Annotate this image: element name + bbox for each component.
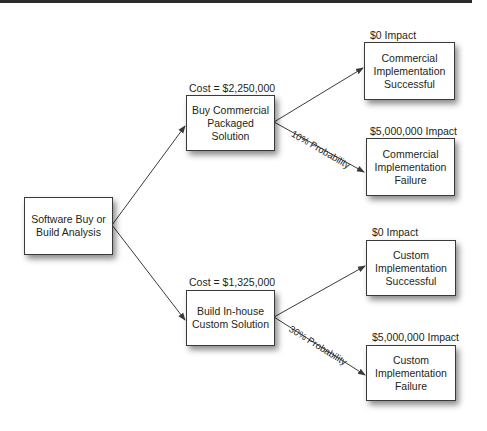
arrow-build-to-success [274,266,365,317]
commercial-success-impact: $0 Impact [370,29,416,41]
outcome-line1: Custom [375,249,447,262]
buy-label-line2: Packaged Solution [187,117,274,143]
build-label-line1: Build In-house [192,305,269,318]
buy-cost-label: Cost = $2,250,000 [189,82,275,94]
buy-commercial-node: Buy Commercial Packaged Solution [186,95,275,151]
build-cost-label: Cost = $1,325,000 [189,276,275,288]
build-label-line2: Custom Solution [192,318,269,331]
custom-success-impact: $0 Impact [372,226,418,238]
outcome-line2: Implementation [375,262,447,275]
outcome-line2: Implementation [375,367,447,380]
outcome-line1: Custom [375,354,447,367]
arrow-buy-to-success [274,68,363,122]
commercial-failure-node: Commercial Implementation Failure [366,138,455,196]
custom-failure-node: Custom Implementation Failure [366,345,456,401]
outcome-line3: Failure [375,380,447,393]
outcome-line3: Successful [374,78,446,91]
outcome-line3: Failure [375,174,447,187]
root-decision-node: Software Buy or Build Analysis [24,197,113,255]
custom-failure-impact: $5,000,000 Impact [372,331,459,343]
root-label-line1: Software Buy or [31,213,106,226]
arrow-root-to-build [112,225,185,320]
outcome-line2: Implementation [374,65,446,78]
root-label-line2: Build Analysis [31,226,106,239]
outcome-line2: Implementation [375,161,447,174]
buy-label-line1: Buy Commercial [187,104,274,117]
build-custom-node: Build In-house Custom Solution [186,290,275,346]
commercial-success-node: Commercial Implementation Successful [364,42,455,100]
custom-success-node: Custom Implementation Successful [366,240,456,296]
outcome-line1: Commercial [374,52,446,65]
arrow-root-to-buy [112,126,185,225]
outcome-line3: Successful [375,275,447,288]
commercial-failure-impact: $5,000,000 Impact [370,125,457,137]
outcome-line1: Commercial [375,148,447,161]
